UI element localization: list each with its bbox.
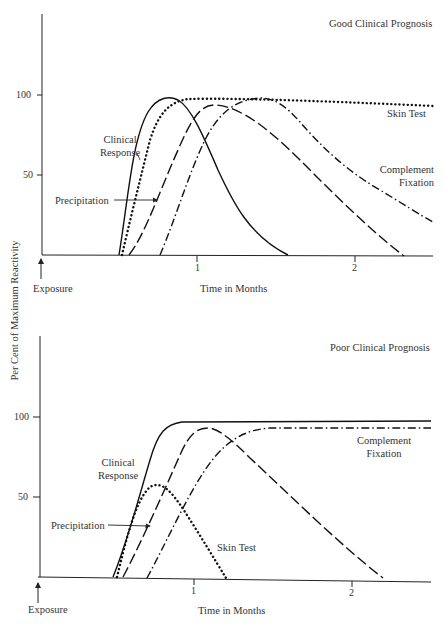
exposure-label: Exposure — [33, 282, 73, 295]
label-line-1: Clinical — [103, 134, 136, 145]
y-tick-label-100: 100 — [16, 89, 31, 100]
label-line-1: Complement — [357, 435, 411, 446]
label-skin-test: Skin Test — [387, 107, 426, 120]
precipitation-pointer — [108, 525, 150, 526]
x-axis — [42, 255, 433, 256]
y-tick-label-50: 50 — [18, 491, 28, 502]
label-skin-test: Skin Test — [217, 541, 256, 554]
label-line-1: Clinical — [101, 457, 134, 468]
x-axis-label: Time in Months — [200, 282, 267, 295]
series-clinical-response — [119, 98, 288, 255]
label-line-2: Response — [100, 147, 140, 158]
series-precipitation — [129, 105, 404, 256]
y-tick-label-50: 50 — [23, 169, 33, 180]
panel-poor-prognosis — [33, 336, 431, 603]
x-tick-label-1: 1 — [191, 585, 196, 596]
x-tick-label-2: 2 — [349, 587, 354, 598]
label-clinical-response: Clinical Response — [96, 133, 144, 159]
x-tick-label-2: 2 — [352, 262, 357, 273]
y-axis-label: Per Cent of Maximum Reactivity — [9, 211, 20, 411]
x-axis — [38, 577, 431, 582]
label-complement-fixation: Complement Fixation — [370, 163, 434, 189]
label-precipitation: Precipitation — [55, 194, 109, 207]
label-complement-fixation: Complement Fixation — [352, 434, 416, 460]
panel-title: Poor Clinical Prognosis — [330, 341, 430, 354]
x-axis-label: Time in Months — [198, 604, 265, 617]
exposure-label: Exposure — [28, 603, 68, 616]
x-tick-label-1: 1 — [195, 262, 200, 273]
figure-canvas — [0, 0, 444, 629]
label-line-2: Response — [98, 470, 138, 481]
label-line-2: Fixation — [399, 177, 434, 188]
panel-title: Good Clinical Prognosis — [329, 17, 432, 30]
label-line-2: Fixation — [366, 448, 401, 459]
label-precipitation: Precipitation — [51, 519, 105, 532]
series-precipitation — [123, 428, 383, 578]
label-line-1: Complement — [380, 164, 434, 175]
y-tick-label-100: 100 — [14, 411, 29, 422]
label-clinical-response: Clinical Response — [94, 456, 142, 482]
